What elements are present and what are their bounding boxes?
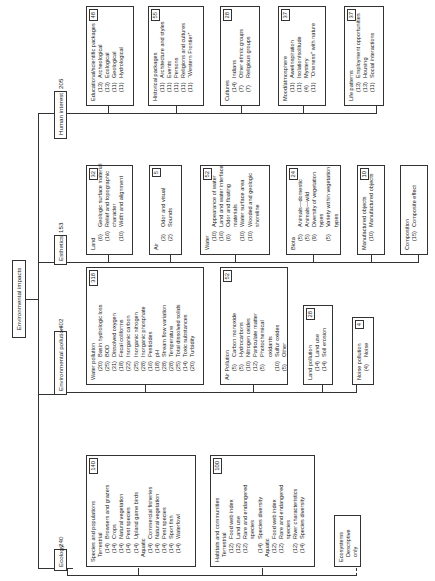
list-item: (11)Social interactions bbox=[369, 11, 376, 101]
list-item: (31)Dissolved oxygen bbox=[111, 272, 118, 380]
group-life-patterns: 37 Life patterns (13)Employment opportun… bbox=[344, 6, 384, 106]
list-item: (14)Crops bbox=[111, 460, 118, 562]
list-item: (25)Inorganic nitrogen bbox=[133, 272, 140, 380]
list-item: (5)Carbon monoxide bbox=[231, 272, 238, 380]
group-total: 24 bbox=[289, 168, 298, 180]
connector bbox=[262, 568, 263, 576]
group-composition: Composition (15)Composite effect bbox=[400, 165, 428, 255]
list-item: (11)Architecture and styles bbox=[159, 11, 166, 101]
group-title: Mood/atmosphere bbox=[282, 11, 289, 101]
list-item: (18)Fecal coliforms bbox=[118, 272, 125, 380]
group-title: Composition bbox=[404, 170, 411, 250]
category-environmental-pollution: Environmental pollution bbox=[54, 331, 67, 395]
category-ecology: Ecology bbox=[54, 549, 67, 571]
group-title: Cultures bbox=[224, 11, 231, 101]
list-item: (12)Food web index bbox=[228, 460, 235, 562]
connector bbox=[313, 255, 314, 263]
connector bbox=[322, 385, 323, 393]
category-label: Environmental pollution bbox=[57, 327, 64, 391]
list-item-continuation: types bbox=[333, 170, 340, 250]
list-item: (12)Food web index bbox=[271, 460, 278, 562]
group-ecosystems: Ecosystems Descriptive only bbox=[334, 515, 361, 567]
list-item: (14)Commercial fisheries bbox=[147, 460, 154, 562]
list-item: (3)Odor and visual bbox=[160, 170, 167, 250]
list-item: (10)Manufactured objects bbox=[368, 170, 375, 250]
connector bbox=[253, 385, 254, 393]
connector bbox=[371, 255, 372, 263]
list-item: (13)Housing bbox=[362, 11, 369, 101]
section-label: Aquatic bbox=[264, 460, 271, 562]
connector bbox=[38, 568, 54, 569]
connector bbox=[38, 113, 54, 114]
list-item-continuation: types bbox=[318, 170, 325, 250]
connector bbox=[67, 113, 377, 114]
list-item: (10)Sulfur oxides bbox=[274, 272, 281, 380]
list-item: (5)Animals—wild bbox=[304, 170, 311, 250]
list-item: (12)Particulate matter bbox=[252, 272, 259, 380]
connector bbox=[376, 106, 377, 114]
group-educational-scientific-packages: 48 Educational/scientific packages (13)A… bbox=[86, 6, 134, 106]
group-esthetics-water: 52 Water (10)Appearance of water (16)Lan… bbox=[200, 165, 270, 255]
list-item: (11)Persons bbox=[173, 11, 180, 101]
list-item: (14)Pest species bbox=[161, 460, 168, 562]
group-total: 10 bbox=[360, 168, 369, 180]
list-item: (14)Browsers and grazers bbox=[104, 460, 111, 562]
list-item: (11)Events bbox=[166, 11, 173, 101]
list-item: (13)Employment opportunities bbox=[355, 11, 362, 101]
connector bbox=[67, 262, 419, 263]
category-human-interest: Human interest bbox=[54, 91, 67, 139]
group-title: Historical packages bbox=[152, 11, 159, 101]
list-item: (4)Noise bbox=[363, 322, 370, 380]
list-item: (14)Soil erosion bbox=[321, 310, 328, 380]
list-item: (16)Relief and topographic bbox=[104, 170, 111, 250]
group-total: 4 bbox=[355, 320, 364, 329]
connector bbox=[108, 106, 109, 114]
connector bbox=[303, 106, 304, 114]
group-mood-atmosphere: 37 Mood/atmosphere (11)Awe/inspiration (… bbox=[278, 6, 326, 106]
list-item: (13)Ecological bbox=[104, 11, 111, 101]
list-item: (22)Inorganic carbon bbox=[125, 272, 132, 380]
group-title: Water pollution bbox=[90, 272, 97, 380]
connector bbox=[38, 113, 39, 569]
list-item: (14)Natural vegetation bbox=[154, 460, 161, 562]
list-item: (12)Land use bbox=[235, 460, 242, 562]
list-item: (5)Photochemical bbox=[259, 272, 266, 380]
list-item: (14)Waterfowl bbox=[175, 460, 182, 562]
list-item: (28)Inorganic phosphate bbox=[140, 272, 147, 380]
group-cultures: 28 Cultures (14)Indians (7)Other ethnic … bbox=[220, 6, 260, 106]
list-item: (6)Odor and floating bbox=[225, 170, 232, 250]
group-title: Ecosystems bbox=[338, 520, 345, 562]
list-item: (14)Toxic substances bbox=[182, 272, 189, 380]
group-title: Species and populations bbox=[90, 460, 97, 562]
list-item: (5)Variety within vegetation bbox=[325, 170, 332, 250]
group-total: 28 bbox=[223, 9, 232, 21]
group-title: Habitats and communities bbox=[214, 460, 221, 562]
category-total: 153 bbox=[57, 223, 64, 233]
group-esthetics-air: 5 Air (3)Odor and visual (2)Sounds bbox=[149, 165, 182, 255]
connector bbox=[176, 106, 177, 114]
group-esthetics-biota: 24 Biota (5)Animals—domestic (5)Animals—… bbox=[286, 165, 341, 255]
section-label: Terrestrial bbox=[97, 460, 104, 562]
list-item: (5)Hydrocarbons bbox=[238, 272, 245, 380]
connector bbox=[38, 394, 54, 395]
group-noise-pollution: 4 Noise pollution (4)Noise bbox=[352, 317, 374, 385]
list-item: (28)Temperature bbox=[168, 272, 175, 380]
list-item: (12)River characteristics bbox=[292, 460, 299, 562]
list-item: (4)Mystery bbox=[303, 11, 310, 101]
group-title: Biota bbox=[290, 170, 297, 250]
group-title: Land pollution bbox=[307, 310, 314, 380]
connector bbox=[418, 255, 419, 263]
list-item: (14)Indians bbox=[231, 11, 238, 101]
connector bbox=[356, 385, 357, 393]
list-item: (11)“Oneness” with nature bbox=[310, 11, 317, 101]
list-item: (10)Nitrogen oxides bbox=[245, 272, 252, 380]
list-item: (12)Rare and endangered bbox=[278, 460, 285, 562]
group-total: 28 bbox=[306, 308, 315, 320]
group-species-and-populations: 140 Species and populations Terrestrial … bbox=[86, 455, 196, 567]
group-title: Air Pollution bbox=[224, 272, 231, 380]
section-label: Terrestrial bbox=[221, 460, 228, 562]
group-title: Manufactured objects bbox=[361, 170, 368, 250]
connector bbox=[67, 568, 68, 576]
list-item: (10)Appearance of water bbox=[211, 170, 218, 250]
connector-dashed bbox=[356, 568, 357, 576]
